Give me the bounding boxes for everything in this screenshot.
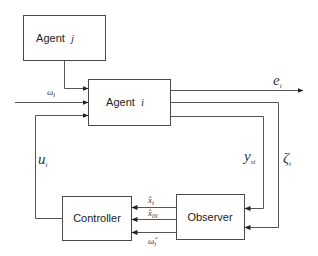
- agent-i-name: Agent: [106, 96, 135, 108]
- omegahat-label: ω̂i: [148, 236, 158, 248]
- agent-j-block: Agent j: [24, 16, 106, 61]
- xhat-label: x̂i: [147, 195, 154, 207]
- controller-block: Controller: [63, 197, 132, 241]
- zeta-label: ζi: [283, 150, 291, 168]
- e-label: ei: [273, 72, 282, 90]
- block-diagram: Agent j Agent i Controller Observer ωi u…: [0, 0, 318, 256]
- agent-j-name: Agent: [36, 32, 65, 44]
- u-label: ui: [38, 151, 48, 169]
- agent-j-to-agent-i-wire: [65, 61, 89, 89]
- observer-block: Observer: [177, 195, 245, 240]
- x0hat-label: x̂0i: [147, 208, 158, 220]
- controller-label: Controller: [73, 212, 121, 224]
- omega-label: ωi: [47, 87, 55, 99]
- observer-label: Observer: [187, 211, 233, 223]
- agent-i-index: i: [141, 96, 144, 108]
- y-label: ysi: [242, 148, 255, 166]
- agent-i-block: Agent i: [89, 80, 171, 126]
